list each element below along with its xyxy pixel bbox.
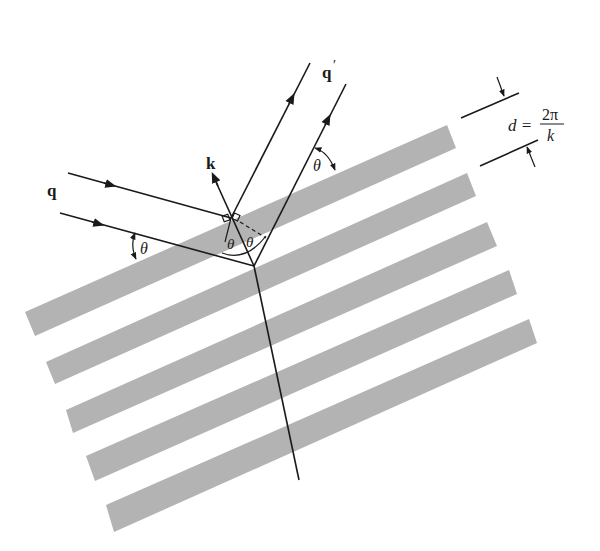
incident-ray-1 <box>68 173 231 218</box>
spacing-numerator: 2π <box>542 106 558 123</box>
theta-inner-right-label: θ <box>246 234 254 250</box>
theta-left-label: θ <box>140 240 148 257</box>
direction-arrow-icon <box>289 98 292 104</box>
right-angle-icon <box>222 214 230 222</box>
dimension-arrow-bottom-icon <box>527 147 535 167</box>
spacing-denominator: k <box>547 127 555 144</box>
dimension-arrow-top-icon <box>497 77 504 96</box>
spacing-formula: d = 2π k <box>508 106 564 144</box>
incident-label: q <box>47 181 57 200</box>
theta-inner-left-label: θ <box>227 236 235 252</box>
wavevector-label: k <box>206 154 216 173</box>
diagram-svg: q q ′ k θ θ θ θ d = 2π k <box>0 0 600 551</box>
scattered-prime: ′ <box>333 58 336 73</box>
k-arrow-icon <box>214 177 218 186</box>
dimension-line-top <box>461 93 519 118</box>
incident-rays <box>60 173 254 266</box>
direction-arrow-icon <box>104 183 111 185</box>
direction-arrow-icon <box>92 222 99 224</box>
left-theta-arc <box>133 233 136 259</box>
scattered-label: q <box>322 63 332 82</box>
lattice-planes <box>25 125 537 532</box>
bragg-diagram: q q ′ k θ θ θ θ d = 2π k <box>0 0 600 551</box>
spacing-lhs: d = <box>508 116 532 135</box>
theta-right-label: θ <box>313 157 321 174</box>
